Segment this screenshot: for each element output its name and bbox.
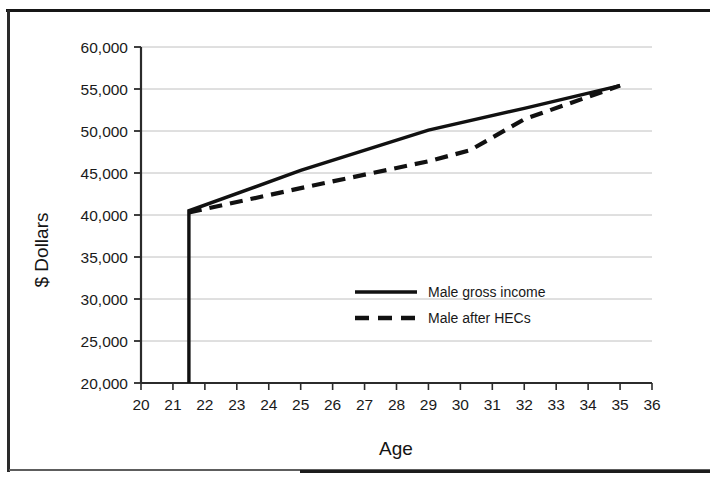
series-line-1 (189, 86, 620, 213)
y-axis-tick-label: 60,000 (81, 39, 129, 56)
y-axis-tick-label: 40,000 (81, 207, 129, 224)
x-axis-tick-label: 33 (548, 396, 565, 413)
y-axis-tick-label: 55,000 (81, 81, 129, 98)
x-axis-tick-label: 23 (228, 396, 245, 413)
legend-label-1: Male after HECs (428, 310, 531, 326)
figure-root: 20,00025,00030,00035,00040,00045,00050,0… (0, 0, 710, 478)
x-axis-tick-label: 22 (196, 396, 213, 413)
y-axis-tick-label: 20,000 (81, 375, 129, 392)
y-axis-tick-label: 30,000 (81, 291, 129, 308)
x-axis-tick-label: 26 (324, 396, 341, 413)
y-axis-tick-labels-group: 20,00025,00030,00035,00040,00045,00050,0… (81, 39, 129, 392)
x-axis-tick-label: 20 (132, 396, 150, 413)
x-axis-tick-label: 30 (452, 396, 470, 413)
x-axis-tick-label: 29 (420, 396, 437, 413)
chart-legend: Male gross incomeMale after HECs (355, 284, 546, 326)
line-chart: 20,00025,00030,00035,00040,00045,00050,0… (0, 0, 710, 478)
y-axis-tick-label: 50,000 (81, 123, 129, 140)
x-axis-tick-label: 24 (260, 396, 278, 413)
x-axis-tick-label: 25 (292, 396, 309, 413)
x-axis-tick-label: 32 (516, 396, 533, 413)
y-axis-title: $ Dollars (31, 213, 52, 288)
x-axis-tick-label: 27 (356, 396, 373, 413)
y-axis-tick-label: 35,000 (81, 249, 129, 266)
y-axis-tick-label: 25,000 (81, 333, 129, 350)
x-axis-tick-label: 35 (611, 396, 628, 413)
x-axis-title: Age (379, 438, 413, 459)
x-axis-tick-label: 21 (164, 396, 181, 413)
series-line-0 (189, 86, 620, 383)
data-series-group (189, 86, 620, 383)
y-axis-tick-label: 45,000 (81, 165, 129, 182)
x-axis-tick-label: 28 (388, 396, 405, 413)
legend-label-0: Male gross income (428, 284, 546, 300)
x-axis-tick-label: 36 (643, 396, 660, 413)
x-axis-tick-label: 31 (484, 396, 501, 413)
x-axis-tick-labels-group: 2021222324252627282930313233343536 (132, 396, 660, 413)
x-axis-tick-label: 34 (580, 396, 598, 413)
